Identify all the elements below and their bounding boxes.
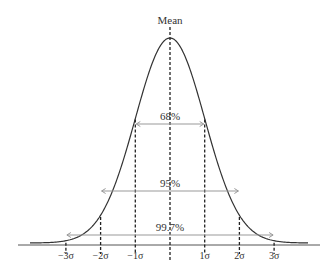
axis-tick-label: −2σ — [93, 250, 110, 261]
axis-tick-label: 3σ — [269, 250, 280, 261]
mean-label: Mean — [157, 14, 183, 26]
axis-tick-label: 2σ — [234, 250, 245, 261]
interval-label: 99.7% — [156, 221, 184, 233]
bell-curve — [30, 38, 308, 243]
axis-tick-label: −3σ — [58, 250, 75, 261]
axis-tick-labels: −3σ−2σ−1σ1σ2σ3σ — [58, 250, 280, 261]
normal-distribution-diagram: 68%95%99.7% Mean −3σ−2σ−1σ1σ2σ3σ — [0, 0, 336, 272]
interval-label: 95% — [160, 177, 180, 189]
interval-label: 68% — [160, 110, 180, 122]
axis-tick-label: 1σ — [200, 250, 211, 261]
axis-tick-label: −1σ — [127, 250, 144, 261]
